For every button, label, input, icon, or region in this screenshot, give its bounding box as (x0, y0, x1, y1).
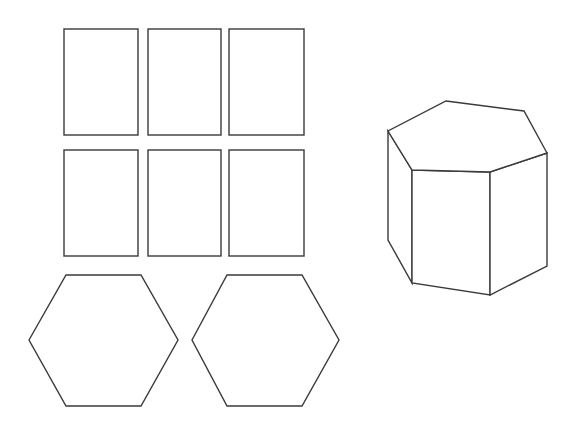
prism-right-face (490, 153, 547, 295)
net-lateral-faces (64, 29, 304, 256)
prism-top-face (388, 101, 547, 172)
net-rect-1 (64, 29, 138, 135)
net-rect-4 (64, 150, 138, 256)
net (29, 29, 339, 406)
net-rect-3 (229, 29, 304, 135)
net-rect-2 (148, 29, 221, 135)
hexagonal-prism (388, 101, 547, 295)
prism-front-face (412, 170, 490, 295)
net-hexagon-2 (192, 275, 339, 406)
diagram-canvas (0, 0, 579, 442)
net-rect-5 (148, 150, 221, 256)
net-hexagon-1 (29, 275, 178, 406)
net-rect-6 (229, 150, 304, 256)
net-bases (29, 275, 339, 406)
